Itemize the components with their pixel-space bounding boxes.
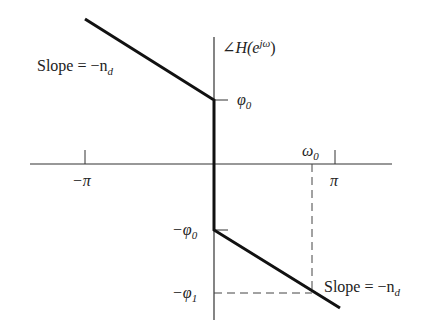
neg-phi0-label: −φ0 xyxy=(172,222,197,241)
neg-phi1-sub: 1 xyxy=(192,292,198,304)
phi0-label: φ0 xyxy=(237,92,251,111)
neg-phi1-sym: −φ xyxy=(172,284,192,301)
y-axis-label-sup: jω xyxy=(259,37,270,49)
omega0-label: ω0 xyxy=(302,143,319,162)
phi0-sub: 0 xyxy=(246,99,252,111)
neg-phi1-label: −φ1 xyxy=(172,285,197,304)
y-axis-label-suffix: ) xyxy=(270,39,275,56)
slope-right-sub: d xyxy=(395,286,401,298)
pi-label: π xyxy=(330,173,338,189)
slope-left-text: Slope = −n xyxy=(37,57,108,74)
slope-right-text: Slope = −n xyxy=(324,278,395,295)
omega0-sym: ω xyxy=(302,142,313,159)
phi0-sym: φ xyxy=(237,91,246,108)
y-axis-label: ∠H(ejω) xyxy=(222,38,276,56)
neg-pi-label: −π xyxy=(72,173,91,189)
y-axis-label-main: ∠H(e xyxy=(222,39,259,56)
slope-left-sub: d xyxy=(108,65,114,77)
phase-response-diagram: ∠H(ejω) Slope = −nd φ0 ω0 −π π −φ0 −φ1 S… xyxy=(0,0,445,332)
neg-phi0-sub: 0 xyxy=(192,229,198,241)
neg-phi0-sym: −φ xyxy=(172,221,192,238)
slope-label-right: Slope = −nd xyxy=(324,279,400,298)
slope-label-left: Slope = −nd xyxy=(37,58,113,77)
omega0-sub: 0 xyxy=(313,150,319,162)
